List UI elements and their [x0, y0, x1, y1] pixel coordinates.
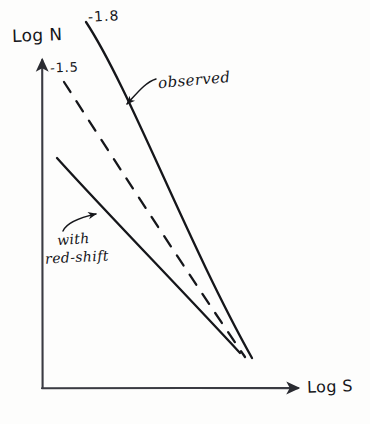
series-line-euclidean-reference: [64, 82, 245, 357]
observed-leader-arrow: [127, 79, 156, 104]
redshift-leader-arrow: [63, 214, 96, 231]
slope-label-dashed: -1.5: [50, 60, 79, 76]
axis-label-y: Log N: [12, 24, 63, 46]
axis-label-x: Log S: [307, 376, 353, 397]
figure-canvas: Log N Log S -1.8 -1.5 observed with red-…: [0, 0, 370, 424]
annotation-redshift-line-1: with: [56, 230, 90, 248]
annotation-redshift-line-2: red-shift: [45, 247, 110, 266]
slope-label-observed: -1.8: [88, 7, 120, 25]
